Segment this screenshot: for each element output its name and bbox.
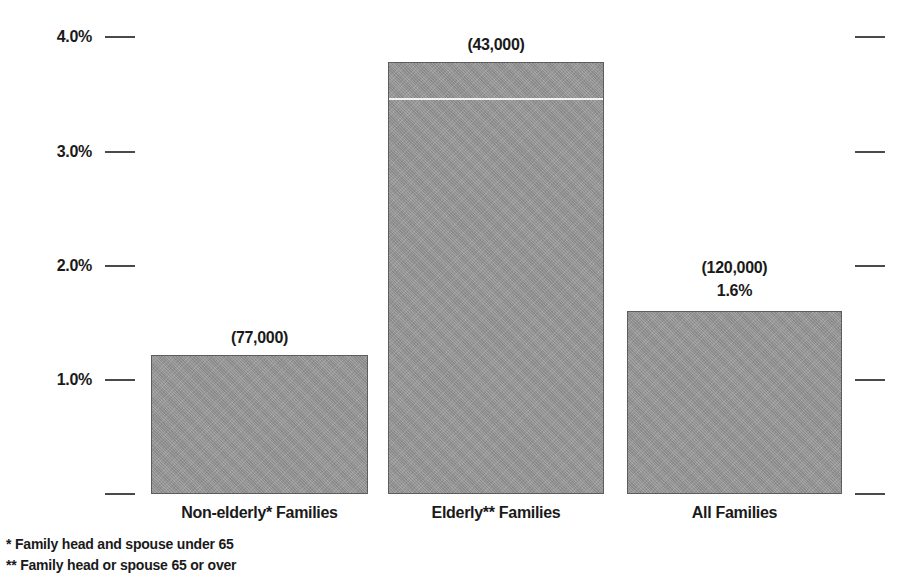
- bar-value-label-elderly: (43,000): [388, 35, 604, 55]
- footnote-single-asterisk: * Family head and spouse under 65: [6, 536, 234, 552]
- bar-scan-artifact-line: [389, 98, 603, 100]
- bar-value-label-non-elderly: (77,000): [151, 328, 368, 348]
- y-tick-label-2: 2.0%: [0, 257, 92, 275]
- bar-value-label-all-families-percent: 1.6%: [627, 281, 842, 301]
- category-label-all-families: All Families: [627, 504, 842, 522]
- y-tick-mark-left-0: [105, 493, 135, 495]
- bar-all-families: [627, 311, 842, 494]
- bar-chart: 4.0% 3.0% 2.0% 1.0% (77,000) Non-elderly…: [0, 0, 909, 588]
- y-tick-mark-right-0: [855, 493, 885, 495]
- y-tick-label-4: 4.0%: [0, 28, 92, 46]
- y-tick-mark-left-2: [105, 265, 135, 267]
- y-tick-mark-right-3: [855, 151, 885, 153]
- category-label-non-elderly-families: Non-elderly* Families: [151, 504, 368, 522]
- footnote-double-asterisk: ** Family head or spouse 65 or over: [6, 557, 236, 573]
- y-tick-mark-left-1: [105, 379, 135, 381]
- bar-elderly-families: [388, 62, 604, 494]
- y-tick-label-1: 1.0%: [0, 371, 92, 389]
- y-tick-mark-right-4: [855, 36, 885, 38]
- bar-value-label-all-families-count: (120,000): [627, 258, 842, 278]
- y-tick-mark-left-3: [105, 151, 135, 153]
- category-label-elderly-families: Elderly** Families: [388, 504, 604, 522]
- y-tick-mark-right-2: [855, 265, 885, 267]
- y-tick-mark-right-1: [855, 379, 885, 381]
- y-tick-label-3: 3.0%: [0, 143, 92, 161]
- bar-non-elderly-families: [151, 355, 368, 494]
- y-tick-mark-left-4: [105, 36, 135, 38]
